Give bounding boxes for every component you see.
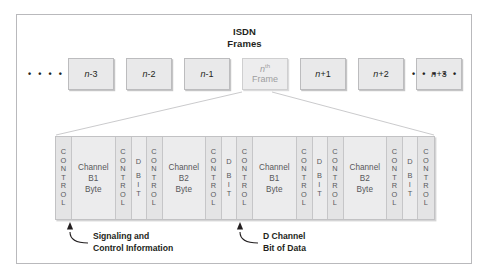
control-label-vertical: C O N T R O L [332, 148, 338, 208]
frame-box-n-plus-2[interactable]: n+2 [358, 58, 404, 90]
control-label-vertical: C O N T R O L [61, 148, 67, 208]
control-letter: L [242, 199, 246, 208]
frame-sequence-row: • • • • • n-3 n-2 n-1 nth Frame n+1 n+2 … [16, 58, 472, 92]
dbit-letters-bit: B I T [317, 172, 322, 198]
frame-label-rest: -2 [148, 69, 156, 79]
cell-channel-byte: Channel B2 Byte [163, 137, 207, 219]
control-letter: L [302, 199, 306, 208]
control-label-vertical: C O N T R O L [120, 148, 126, 208]
ellipsis-right: • • • • • [412, 70, 458, 79]
frame-label-rest: -3 [90, 69, 98, 79]
byte-label: Channel B1 Byte [259, 162, 290, 195]
dbit-label-vertical: D B I T [407, 158, 413, 198]
frame-detail-strip: C O N T R O L Channel B1 Byte C O N T [55, 136, 435, 220]
byte-label-line2: B2 [169, 173, 200, 184]
byte-label-line2: B1 [78, 173, 109, 184]
figure-title-line1: ISDN [0, 26, 489, 38]
byte-label-line2: B1 [259, 173, 290, 184]
cell-control: C O N T R O L [418, 137, 434, 219]
dbit-letter-d: D [407, 158, 413, 167]
dbit-letter: T [317, 190, 322, 199]
dbit-letter-d: D [136, 158, 142, 167]
byte-label-line3: Byte [78, 184, 109, 195]
dbit-label-vertical: D B I T [226, 158, 232, 198]
annotation-dchannel-line2: Bit of Data [263, 243, 306, 255]
control-letter: L [333, 199, 337, 208]
byte-label-line1: Channel [169, 162, 200, 173]
dbit-letters-bit: B I T [226, 172, 231, 198]
cell-control: C O N T R O L [328, 137, 344, 219]
control-label-vertical: C O N T R O L [211, 148, 217, 208]
dbit-letters-bit: B I T [407, 172, 412, 198]
cell-d-bit: D B I T [222, 137, 237, 219]
dbit-letter: T [227, 190, 232, 199]
byte-label-line3: Byte [350, 184, 381, 195]
frame-label-line2: Frame [252, 74, 278, 85]
byte-label-line3: Byte [259, 184, 290, 195]
frame-label-rest: -1 [206, 69, 214, 79]
cell-d-bit: D B I T [403, 137, 418, 219]
frame-box-n-minus-2[interactable]: n-2 [126, 58, 172, 90]
control-label-vertical: C O N T R O L [423, 148, 429, 208]
cell-d-bit: D B I T [132, 137, 147, 219]
annotation-dchannel-line1: D Channel [263, 231, 306, 243]
byte-label-line2: B2 [350, 173, 381, 184]
byte-label-line1: Channel [78, 162, 109, 173]
byte-label-line3: Byte [169, 184, 200, 195]
dbit-letter: T [408, 190, 413, 199]
cell-d-bit: D B I T [313, 137, 328, 219]
cell-channel-byte: Channel B1 Byte [253, 137, 297, 219]
figure-title-line2: Frames [0, 38, 489, 50]
control-label-vertical: C O N T R O L [151, 148, 157, 208]
dbit-letter-d: D [317, 158, 323, 167]
cell-control: C O N T R O L [116, 137, 132, 219]
isdn-frame-diagram: ISDN Frames • • • • • n-3 n-2 n-1 nth Fr… [0, 0, 489, 277]
annotation-signaling-line2: Control Information [93, 243, 173, 255]
cell-control: C O N T R O L [147, 137, 163, 219]
frame-box-n-plus-1[interactable]: n+1 [300, 58, 346, 90]
byte-label: Channel B2 Byte [169, 162, 200, 195]
frame-label-rest: +1 [320, 69, 330, 79]
dbit-label-vertical: D B I T [317, 158, 323, 198]
annotation-signaling-line1: Signaling and [93, 231, 173, 243]
control-label-vertical: C O N T R O L [392, 148, 398, 208]
cell-channel-byte: Channel B2 Byte [344, 137, 388, 219]
dbit-label-vertical: D B I T [136, 158, 142, 198]
frame-label-ordinal: th [265, 63, 270, 69]
frame-box-nth[interactable]: nth Frame [242, 58, 288, 90]
cell-control: C O N T R O L [237, 137, 253, 219]
control-letter: L [424, 199, 428, 208]
cell-control: C O N T R O L [56, 137, 72, 219]
byte-label: Channel B2 Byte [350, 162, 381, 195]
dbit-letter-d: D [226, 158, 232, 167]
byte-label: Channel B1 Byte [78, 162, 109, 195]
cell-control: C O N T R O L [387, 137, 403, 219]
dbit-letter: T [136, 190, 141, 199]
control-label-vertical: C O N T R O L [242, 148, 248, 208]
annotation-dchannel: D Channel Bit of Data [263, 231, 306, 254]
control-letter: L [211, 199, 215, 208]
control-letter: L [392, 199, 396, 208]
frame-box-n-minus-3[interactable]: n-3 [68, 58, 114, 90]
annotation-signaling: Signaling and Control Information [93, 231, 173, 254]
frame-box-n-minus-1[interactable]: n-1 [184, 58, 230, 90]
control-letter: L [121, 199, 125, 208]
cell-control: C O N T R O L [206, 137, 222, 219]
control-label-vertical: C O N T R O L [301, 148, 307, 208]
cell-channel-byte: Channel B1 Byte [72, 137, 116, 219]
control-letter: L [152, 199, 156, 208]
cell-control: C O N T R O L [297, 137, 313, 219]
control-letter: L [61, 199, 65, 208]
figure-title: ISDN Frames [0, 26, 489, 49]
dbit-letters-bit: B I T [136, 172, 141, 198]
byte-label-line1: Channel [350, 162, 381, 173]
frame-label-rest: +2 [378, 69, 388, 79]
byte-label-line1: Channel [259, 162, 290, 173]
